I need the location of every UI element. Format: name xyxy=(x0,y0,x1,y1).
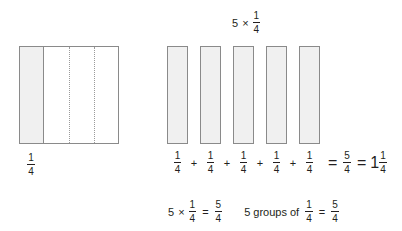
bars-model xyxy=(167,46,320,144)
unit-square-divider-2 xyxy=(69,47,70,143)
addend-2: 1 4 xyxy=(200,150,221,175)
groups-of-result: 5 4 xyxy=(331,199,339,224)
addend-4-numerator: 1 xyxy=(273,150,281,163)
plus-sign-4: + xyxy=(287,157,299,169)
multiplication-sentence-product-numerator: 5 xyxy=(215,199,223,212)
multiplication-sign: × xyxy=(242,17,248,29)
groups-of-fraction: 1 4 xyxy=(305,199,313,224)
multiplication-sentence-equals: = xyxy=(202,206,208,218)
addend-5-numerator: 1 xyxy=(306,150,314,163)
title-fraction: 1 4 xyxy=(253,10,261,35)
groups-of-text: 5 groups of xyxy=(244,206,299,218)
groups-of-fraction-numerator: 1 xyxy=(305,199,313,212)
unit-square-label-denominator: 4 xyxy=(27,165,35,177)
addend-5: 1 4 xyxy=(299,150,320,175)
fraction-bar xyxy=(200,46,221,144)
multiplication-sentence-factor: 5 xyxy=(168,206,174,218)
fraction-bar xyxy=(233,46,254,144)
equals-sign-2: = xyxy=(357,154,366,172)
addend-3: 1 4 xyxy=(233,150,254,175)
plus-sign-1: + xyxy=(188,157,200,169)
multiplication-sentence-product: 5 4 xyxy=(215,199,223,224)
unit-square-label: 1 4 xyxy=(19,152,43,177)
addend-4-denominator: 4 xyxy=(273,163,281,175)
title-fraction-numerator: 1 xyxy=(253,10,261,23)
groups-of-result-denominator: 4 xyxy=(331,212,339,224)
multiplication-sentence-times: × xyxy=(178,206,184,218)
plus-sign-2: + xyxy=(221,157,233,169)
addend-1-numerator: 1 xyxy=(174,150,182,163)
mixed-number-numerator: 1 xyxy=(379,150,387,163)
title-expression: 5 × 1 4 xyxy=(232,10,260,35)
improper-sum-fraction: 5 4 xyxy=(343,150,351,175)
addend-4: 1 4 xyxy=(266,150,287,175)
multiplication-sentence: 5 × 1 4 = 5 4 xyxy=(168,199,222,224)
multiplication-sentence-fraction-denominator: 4 xyxy=(189,212,197,224)
groups-of-sentence: 5 groups of 1 4 = 5 4 xyxy=(244,199,339,224)
bottom-row: 5 × 1 4 = 5 4 5 groups of 1 4 = 5 4 xyxy=(168,199,339,224)
addition-sentence-result: = 5 4 = 1 1 4 xyxy=(328,150,387,175)
mixed-number-denominator: 4 xyxy=(379,163,387,175)
fraction-bar xyxy=(299,46,320,144)
improper-sum-numerator: 5 xyxy=(343,150,351,163)
groups-of-result-numerator: 5 xyxy=(331,199,339,212)
groups-of-equals: = xyxy=(319,206,325,218)
addend-1-denominator: 4 xyxy=(174,163,182,175)
unit-square-shaded-part xyxy=(20,47,44,143)
multiplication-sentence-fraction-numerator: 1 xyxy=(189,199,197,212)
title-fraction-denominator: 4 xyxy=(253,23,261,35)
plus-sign-3: + xyxy=(254,157,266,169)
equals-sign-1: = xyxy=(328,154,337,172)
multiplication-sentence-product-denominator: 4 xyxy=(215,212,223,224)
addend-1: 1 4 xyxy=(167,150,188,175)
multiplication-sentence-fraction: 1 4 xyxy=(189,199,197,224)
mixed-number-whole: 1 xyxy=(370,154,379,172)
groups-of-fraction-denominator: 4 xyxy=(305,212,313,224)
unit-square-label-numerator: 1 xyxy=(27,152,35,165)
addend-2-denominator: 4 xyxy=(207,163,215,175)
addend-3-denominator: 4 xyxy=(240,163,248,175)
mixed-number-fraction: 1 4 xyxy=(379,150,387,175)
title-factor: 5 xyxy=(232,17,238,29)
unit-square-divider-3 xyxy=(94,47,95,143)
unit-square-label-fraction: 1 4 xyxy=(27,152,35,177)
addend-5-denominator: 4 xyxy=(306,163,314,175)
unit-square-model xyxy=(19,46,119,144)
fraction-bar xyxy=(266,46,287,144)
addition-sentence: 1 4 + 1 4 + 1 4 + 1 4 + 1 4 = 5 4 xyxy=(167,150,387,175)
fraction-bar xyxy=(167,46,188,144)
addend-2-numerator: 1 xyxy=(207,150,215,163)
addend-3-numerator: 1 xyxy=(240,150,248,163)
improper-sum-denominator: 4 xyxy=(343,163,351,175)
